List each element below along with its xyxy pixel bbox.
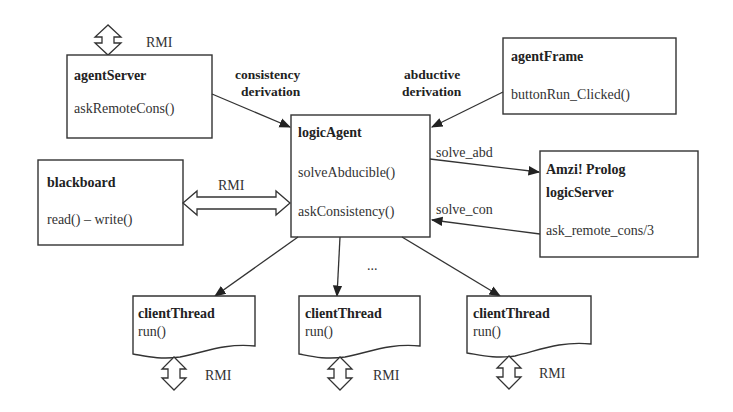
client-thread-3-title: clientThread: [473, 306, 550, 321]
client-thread-1-rmi-arrow-icon: [162, 357, 186, 390]
edge-solve-abd: [430, 159, 539, 172]
agentframe-title: agentFrame: [511, 49, 583, 64]
client-thread-1-title: clientThread: [138, 306, 215, 321]
logicagent-method-solve-abducible: solveAbducible(): [298, 165, 396, 181]
client-thread-1-method: run(): [138, 324, 166, 340]
agentserver-rmi-label: RMI: [146, 35, 173, 50]
agentserver-node: agentServer askRemoteCons(): [67, 55, 212, 138]
agentserver-rmi-arrow-icon: [95, 25, 121, 55]
amzi-title-line1: Amzi! Prolog: [546, 162, 625, 177]
client-thread-2-rmi-label: RMI: [373, 368, 400, 383]
agentframe-node: agentFrame buttonRun_Clicked(): [503, 38, 676, 114]
blackboard-rmi-label: RMI: [218, 178, 245, 193]
client-thread-3-rmi-arrow-icon: [497, 356, 521, 389]
logicagent-node: logicAgent solveAbducible() askConsisten…: [291, 115, 430, 237]
amzi-title-line2: logicServer: [546, 185, 614, 200]
edge-client-thread-1: [215, 237, 298, 296]
solve-con-label: solve_con: [436, 202, 493, 217]
agentserver-title: agentServer: [74, 68, 146, 83]
client-thread-node-2: clientThread run(): [299, 296, 420, 358]
client-thread-2-rmi-arrow-icon: [328, 357, 352, 390]
logicagent-title: logicAgent: [298, 125, 362, 140]
client-thread-2-method: run(): [305, 324, 333, 340]
edge-client-thread-3: [402, 237, 500, 296]
agentserver-method: askRemoteCons(): [74, 101, 175, 117]
consistency-label-line1: consistency: [235, 67, 300, 82]
client-thread-3-method: run(): [473, 324, 501, 340]
solve-abd-label: solve_abd: [436, 145, 493, 160]
architecture-diagram: RMI agentServer askRemoteCons() consiste…: [0, 0, 733, 412]
client-thread-node-1: clientThread run(): [133, 296, 255, 358]
ellipsis-label: ...: [367, 258, 378, 273]
abductive-label-line1: abductive: [404, 67, 460, 82]
amzi-method: ask_remote_cons/3: [546, 223, 654, 238]
amzi-logicserver-node: Amzi! Prolog logicServer ask_remote_cons…: [540, 151, 698, 257]
client-thread-3-rmi-label: RMI: [539, 366, 566, 381]
logicagent-method-ask-consistency: askConsistency(): [298, 204, 395, 220]
client-thread-1-rmi-label: RMI: [205, 368, 232, 383]
blackboard-title: blackboard: [47, 175, 116, 190]
agentframe-method: buttonRun_Clicked(): [511, 87, 630, 103]
edge-client-thread-2: [337, 237, 340, 296]
blackboard-node: blackboard read() – write(): [38, 160, 183, 245]
abductive-label-line2: derivation: [402, 84, 462, 99]
edge-solve-con: [432, 220, 540, 234]
consistency-label-line2: derivation: [241, 84, 301, 99]
client-thread-node-3: clientThread run(): [467, 296, 591, 357]
blackboard-method: read() – write(): [47, 212, 133, 228]
client-thread-2-title: clientThread: [305, 306, 382, 321]
blackboard-rmi-arrow-icon: [183, 191, 290, 215]
